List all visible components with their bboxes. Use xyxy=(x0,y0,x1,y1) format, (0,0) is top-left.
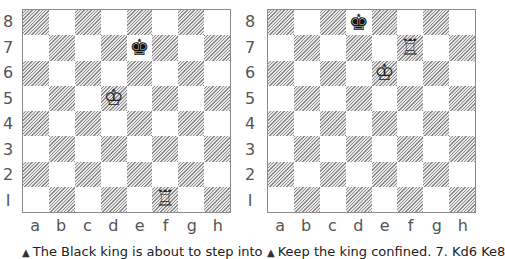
square-e4 xyxy=(127,111,153,136)
square-d6 xyxy=(101,61,127,86)
square-d8: ♚ xyxy=(346,10,372,35)
square-a1 xyxy=(268,187,294,212)
square-a7 xyxy=(23,35,49,60)
square-c8 xyxy=(320,10,346,35)
square-h8 xyxy=(449,10,475,35)
square-h7 xyxy=(204,35,230,60)
square-g4 xyxy=(423,111,449,136)
square-d7 xyxy=(346,35,372,60)
square-a7 xyxy=(268,35,294,60)
rank-label: I xyxy=(0,188,16,214)
square-b2 xyxy=(49,162,75,187)
square-a5 xyxy=(23,86,49,111)
square-h2 xyxy=(449,162,475,187)
square-c2 xyxy=(75,162,101,187)
file-label: a xyxy=(267,216,293,236)
rank-label: 2 xyxy=(0,162,16,188)
square-a3 xyxy=(23,136,49,161)
file-label: b xyxy=(293,216,319,236)
square-c1 xyxy=(320,187,346,212)
square-g6 xyxy=(423,61,449,86)
square-b3 xyxy=(294,136,320,161)
square-d5 xyxy=(346,86,372,111)
square-h2 xyxy=(204,162,230,187)
triangle-marker-icon: ▲ xyxy=(267,247,275,258)
rank-label: I xyxy=(242,188,258,214)
square-b5 xyxy=(49,86,75,111)
file-label: e xyxy=(372,216,398,236)
square-b7 xyxy=(294,35,320,60)
square-f8 xyxy=(152,10,178,35)
rank-labels: 8765432I xyxy=(242,9,258,213)
chessboard: ♚♔♖ xyxy=(22,9,231,213)
rank-label: 7 xyxy=(242,35,258,61)
square-b6 xyxy=(49,61,75,86)
square-c5 xyxy=(320,86,346,111)
square-g7 xyxy=(423,35,449,60)
square-b4 xyxy=(49,111,75,136)
rank-label: 3 xyxy=(0,137,16,163)
square-c7 xyxy=(320,35,346,60)
file-label: c xyxy=(74,216,100,236)
square-e2 xyxy=(372,162,398,187)
square-e5 xyxy=(127,86,153,111)
square-c8 xyxy=(75,10,101,35)
square-b3 xyxy=(49,136,75,161)
rank-label: 6 xyxy=(0,60,16,86)
square-a6 xyxy=(23,61,49,86)
square-a3 xyxy=(268,136,294,161)
square-d1 xyxy=(101,187,127,212)
diagram-caption: ▲Keep the king confined. 7. Kd6 Ke8 xyxy=(267,244,505,259)
square-c4 xyxy=(75,111,101,136)
square-b1 xyxy=(49,187,75,212)
square-h6 xyxy=(204,61,230,86)
square-h7 xyxy=(449,35,475,60)
file-label: h xyxy=(450,216,476,236)
file-labels: abcdefgh xyxy=(267,216,476,236)
square-b8 xyxy=(294,10,320,35)
square-c1 xyxy=(75,187,101,212)
square-d7 xyxy=(101,35,127,60)
square-e6 xyxy=(127,61,153,86)
square-a8 xyxy=(23,10,49,35)
rank-label: 4 xyxy=(242,111,258,137)
rank-label: 5 xyxy=(0,86,16,112)
file-label: g xyxy=(179,216,205,236)
square-b4 xyxy=(294,111,320,136)
square-e3 xyxy=(372,136,398,161)
rank-labels: 8765432I xyxy=(0,9,16,213)
square-e4 xyxy=(372,111,398,136)
square-a4 xyxy=(268,111,294,136)
square-h4 xyxy=(449,111,475,136)
square-d4 xyxy=(346,111,372,136)
square-b5 xyxy=(294,86,320,111)
rank-label: 2 xyxy=(242,162,258,188)
square-d5: ♔ xyxy=(101,86,127,111)
square-e6: ♔ xyxy=(372,61,398,86)
square-h3 xyxy=(204,136,230,161)
white-king-icon: ♔ xyxy=(104,87,124,109)
square-g5 xyxy=(178,86,204,111)
square-g5 xyxy=(423,86,449,111)
file-labels: abcdefgh xyxy=(22,216,231,236)
square-a4 xyxy=(23,111,49,136)
square-c5 xyxy=(75,86,101,111)
square-f1: ♖ xyxy=(152,187,178,212)
square-d3 xyxy=(346,136,372,161)
square-e7: ♚ xyxy=(127,35,153,60)
square-f4 xyxy=(152,111,178,136)
square-b8 xyxy=(49,10,75,35)
square-f5 xyxy=(152,86,178,111)
file-label: d xyxy=(100,216,126,236)
square-e1 xyxy=(127,187,153,212)
file-label: c xyxy=(319,216,345,236)
square-a2 xyxy=(23,162,49,187)
square-c3 xyxy=(320,136,346,161)
square-c2 xyxy=(320,162,346,187)
file-label: f xyxy=(153,216,179,236)
square-f7 xyxy=(152,35,178,60)
square-f3 xyxy=(152,136,178,161)
square-a1 xyxy=(23,187,49,212)
square-h5 xyxy=(204,86,230,111)
black-king-icon: ♚ xyxy=(349,12,369,34)
